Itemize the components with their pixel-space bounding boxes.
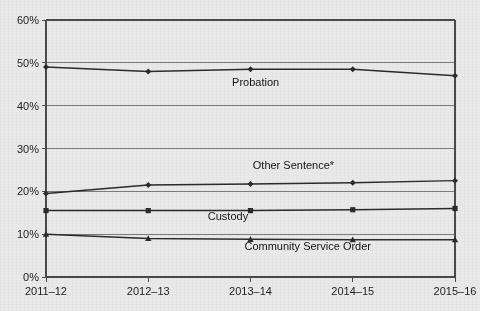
- series-annotation-1: Other Sentence*: [253, 159, 335, 171]
- y-axis-label-20: 20%: [17, 185, 39, 197]
- data-point-2-4: [452, 206, 457, 211]
- chart-container: 0%10%20%30%40%50%60%2011–122012–132013–1…: [0, 0, 480, 311]
- x-axis-label-4: 2015–16: [434, 285, 477, 297]
- series-annotation-0: Probation: [232, 76, 279, 88]
- x-axis-label-1: 2012–13: [127, 285, 170, 297]
- series-annotation-3: Community Service Order: [244, 240, 371, 252]
- line-chart: 0%10%20%30%40%50%60%2011–122012–132013–1…: [0, 0, 480, 311]
- data-point-2-3: [350, 207, 355, 212]
- y-axis-label-60: 60%: [17, 14, 39, 26]
- x-axis-label-0: 2011–12: [25, 285, 67, 297]
- x-axis-label-2: 2013–14: [229, 285, 272, 297]
- y-axis-label-50: 50%: [17, 57, 39, 69]
- data-point-2-0: [43, 208, 48, 213]
- y-axis-label-0: 0%: [23, 271, 39, 283]
- y-axis-label-30: 30%: [17, 143, 39, 155]
- data-point-2-2: [248, 208, 253, 213]
- series-annotation-2: Custody: [208, 210, 249, 222]
- x-axis-label-3: 2014–15: [331, 285, 374, 297]
- data-point-2-1: [146, 208, 151, 213]
- y-axis-label-10: 10%: [17, 228, 39, 240]
- y-axis-label-40: 40%: [17, 100, 39, 112]
